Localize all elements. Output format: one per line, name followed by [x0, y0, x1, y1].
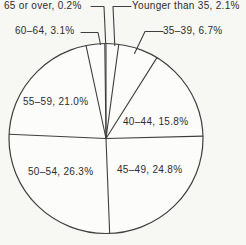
- slice-label-60-64: 60–64, 3.1%: [15, 25, 74, 37]
- slice-label-50-54: 50–54, 26.3%: [28, 166, 93, 178]
- slice-label-35-39: 35–39, 6.7%: [163, 25, 222, 37]
- leader-60-64: [81, 33, 101, 45]
- leader-younger-than-35: [113, 7, 131, 46]
- slice-label-65-or-over: 65 or over, 0.2%: [4, 0, 82, 12]
- slice-label-younger-than-35: Younger than 35, 2.1%: [132, 0, 240, 12]
- slice-label-40-44: 40–44, 15.8%: [123, 116, 188, 128]
- age-distribution-pie-figure: 65 or over, 0.2% Younger than 35, 2.1% 6…: [0, 0, 246, 245]
- leader-65-or-over: [91, 7, 106, 44]
- slice-label-55-59: 55–59, 21.0%: [23, 96, 88, 108]
- slice-label-45-49: 45–49, 24.8%: [117, 164, 182, 176]
